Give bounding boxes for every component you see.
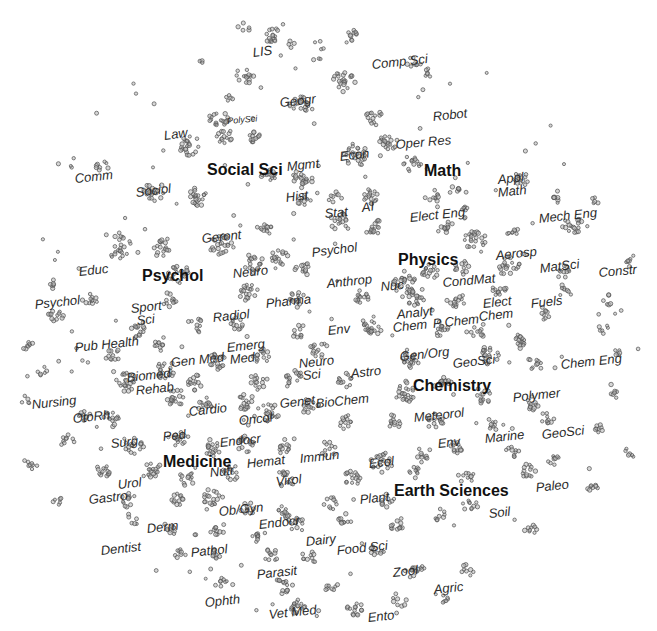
map-label-marine: Marine	[484, 428, 525, 445]
discipline-label-layer: LISComp SciGeogrRobotPolySciLawOper ResE…	[0, 0, 657, 631]
map-label-pathol: Pathol	[190, 542, 228, 559]
map-label-nursing: Nursing	[31, 393, 77, 411]
map-label-pharma: Pharma	[265, 292, 312, 310]
map-label-ecol: Ecol	[368, 454, 395, 470]
map-label-paleo: Paleo	[535, 478, 569, 495]
map-label-stat: Stat	[324, 205, 348, 220]
map-label-ai: AI	[361, 200, 375, 215]
map-label-math: Math	[424, 163, 461, 179]
map-label-sociol: Sociol	[135, 182, 172, 199]
map-label-vet-med: Vet Med	[268, 603, 317, 621]
map-label-geogr: Geogr	[279, 92, 316, 109]
map-label-math: Math	[497, 183, 527, 199]
map-label-law: Law	[163, 126, 188, 142]
map-label-hist: Hist	[285, 188, 309, 204]
map-label-constr: Constr	[598, 263, 637, 280]
map-label-pub-health: Pub Health	[74, 334, 139, 354]
map-label-rehab: Rehab	[135, 380, 174, 397]
map-label-polymer: Polymer	[512, 386, 561, 404]
map-label-neuro: Neuro	[232, 263, 269, 280]
map-label-cardio: Cardio	[188, 401, 227, 418]
map-label-mech-eng: Mech Eng	[538, 206, 598, 225]
map-label-chem: Chem	[392, 317, 428, 334]
map-label-robot: Robot	[432, 106, 468, 123]
map-label-biochem: BioChem	[315, 391, 370, 410]
science-map-figure: LISComp SciGeogrRobotPolySciLawOper ResE…	[0, 0, 657, 631]
map-label-gen-org: Gen/Org	[399, 345, 450, 363]
map-label-soil: Soil	[488, 505, 511, 520]
map-label-med: Med	[229, 350, 256, 366]
map-label-nuc: Nuc	[380, 278, 404, 293]
map-label-oncol: Oncol	[238, 410, 273, 427]
map-label-immun: Immun	[299, 448, 340, 465]
map-label-matsci: MatSci	[539, 257, 580, 275]
map-label-geront: Geront	[201, 228, 242, 245]
map-label-sci: Sci	[136, 312, 155, 327]
map-label-polysci: PolySci	[227, 114, 258, 126]
map-label-otorh: OtoRh	[72, 408, 111, 425]
map-label-comp-sci: Comp Sci	[371, 52, 428, 71]
map-label-astro: Astro	[350, 364, 382, 380]
map-label-zool: Zool	[392, 563, 419, 579]
map-label-chem-eng: Chem Eng	[560, 352, 622, 372]
map-label-elect-eng: Elect Eng	[409, 205, 466, 224]
map-label-lis: LIS	[252, 44, 273, 60]
map-label-dairy: Dairy	[305, 532, 337, 548]
map-label-psychol: Psychol	[34, 293, 81, 311]
map-label-fuels: Fuels	[530, 294, 563, 311]
map-label-aerosp: Aerosp	[495, 245, 537, 262]
map-label-geosci: GeoSci	[452, 353, 496, 371]
map-label-radiol: Radiol	[212, 307, 250, 324]
map-label-condmat: CondMat	[442, 271, 496, 289]
map-label-oper-res: Oper Res	[395, 133, 452, 151]
map-label-env: Env	[327, 322, 351, 338]
map-label-meteorol: Meteorol	[413, 406, 465, 424]
map-label-psychol: Psychol	[311, 240, 358, 259]
map-label-chemistry: Chemistry	[413, 378, 491, 394]
map-label-mgmt: Mgmt	[286, 157, 320, 174]
map-label-educ: Educ	[78, 262, 109, 278]
map-label-ped: Ped	[162, 428, 186, 444]
map-label-sci: Sci	[302, 367, 321, 382]
map-label-ophth: Ophth	[204, 592, 241, 609]
map-label-physics: Physics	[398, 252, 458, 268]
map-label-nutr: Nutr	[209, 463, 235, 479]
map-label-psychol: Psychol	[142, 268, 203, 284]
map-label-earth-sciences: Earth Sciences	[394, 483, 509, 499]
map-label-parasit: Parasit	[256, 564, 298, 581]
map-label-social-sci: Social Sci	[207, 162, 283, 178]
map-label-comm: Comm	[74, 168, 113, 185]
map-label-derm: Derm	[146, 519, 179, 535]
map-label-endocr: Endocr	[258, 514, 300, 531]
map-label-endocr: Endocr	[219, 432, 261, 449]
map-label-hemat: Hemat	[246, 453, 285, 470]
map-label-plant: Plant	[359, 490, 390, 506]
map-label-env: Env	[437, 435, 461, 451]
map-label-virol: Virol	[275, 472, 302, 488]
map-label-geosci: GeoSci	[541, 424, 585, 442]
map-label-ob-gyn: Ob/Gyn	[218, 500, 264, 518]
map-label-agric: Agric	[433, 580, 464, 596]
map-label-food-sci: Food Sci	[336, 539, 388, 558]
map-label-p-chem: P Chem	[432, 312, 480, 330]
map-label-chem: Chem	[478, 306, 514, 323]
map-label-anthrop: Anthrop	[326, 272, 373, 290]
map-label-genet: Genet	[279, 393, 316, 410]
map-label-dentist: Dentist	[100, 540, 142, 557]
map-label-econ: Econ	[339, 146, 370, 163]
map-label-ento: Ento	[367, 608, 395, 624]
map-label-gen-med: Gen Med	[170, 350, 225, 369]
map-label-gastro: Gastro	[88, 489, 128, 506]
map-label-surg: Surg	[110, 434, 139, 450]
